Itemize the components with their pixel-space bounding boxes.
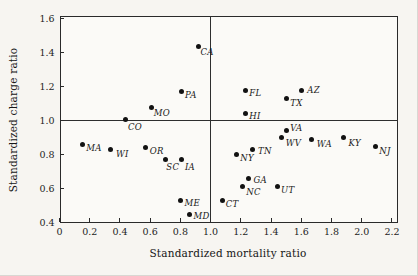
point-label: VA: [290, 124, 302, 133]
point-label: NJ: [379, 147, 390, 156]
scatter-figure: Standardized charge ratio Standardized m…: [0, 0, 418, 276]
data-point: [243, 88, 248, 93]
point-label: ME: [184, 199, 200, 208]
x-axis-tick: [240, 218, 241, 222]
x-tick-label: 0.2: [75, 227, 105, 237]
x-tick-label: 0.6: [135, 227, 165, 237]
y-axis-tick: [60, 154, 64, 155]
y-axis-tick: [60, 222, 64, 223]
point-label: MD: [193, 212, 209, 221]
point-label: NY: [240, 154, 254, 163]
y-axis-tick: [60, 52, 64, 53]
x-axis-tick: [361, 218, 362, 222]
x-axis-tick: [391, 218, 392, 222]
x-tick-label: 2.2: [377, 227, 407, 237]
point-label: TN: [258, 147, 272, 156]
y-axis-title: Standardized charge ratio: [7, 48, 19, 193]
point-label: MO: [154, 109, 170, 118]
reference-line-horizontal: [60, 120, 399, 121]
point-label: UT: [281, 186, 294, 195]
point-label: WA: [317, 140, 332, 149]
data-point: [187, 212, 192, 217]
x-axis-tick: [301, 218, 302, 222]
point-label: NC: [246, 188, 261, 197]
data-point: [373, 144, 378, 149]
x-axis-tick: [119, 218, 120, 222]
y-axis-tick: [60, 120, 64, 121]
x-tick-label: 1.4: [256, 227, 286, 237]
point-label: CA: [201, 48, 214, 57]
point-label: WI: [116, 150, 129, 159]
point-label: PA: [185, 91, 197, 100]
x-axis-tick: [89, 218, 90, 222]
y-tick-label: 0.4: [25, 218, 55, 228]
point-label: FL: [249, 89, 261, 98]
x-tick-label: 2.0: [347, 227, 377, 237]
point-label: TX: [290, 99, 302, 108]
y-axis-tick: [60, 86, 64, 87]
data-point: [80, 142, 85, 147]
data-point: [246, 176, 251, 181]
point-label: WV: [286, 139, 301, 148]
point-label: IA: [185, 163, 195, 172]
point-label: KY: [349, 139, 361, 148]
x-tick-label: 1.0: [196, 227, 226, 237]
x-axis-tick: [210, 218, 211, 222]
y-axis-tick: [60, 188, 64, 189]
x-tick-label: 1.6: [286, 227, 316, 237]
x-axis-tick: [271, 218, 272, 222]
x-axis-tick: [331, 218, 332, 222]
x-axis-title: Standardized mortality ratio: [149, 247, 306, 259]
x-axis-tick: [150, 218, 151, 222]
y-tick-label: 1.2: [25, 82, 55, 92]
data-point: [178, 198, 183, 203]
point-label: HI: [249, 112, 260, 121]
plot-area: [60, 16, 399, 223]
y-tick-label: 0.6: [25, 184, 55, 194]
point-label: SC: [166, 163, 179, 172]
y-tick-label: 0.8: [25, 150, 55, 160]
x-axis-tick: [180, 218, 181, 222]
x-tick-label: 0.8: [165, 227, 195, 237]
y-tick-label: 1.0: [25, 116, 55, 126]
point-label: AZ: [307, 86, 320, 95]
x-tick-label: 1.8: [317, 227, 347, 237]
data-point: [234, 152, 239, 157]
x-tick-label: 1.2: [226, 227, 256, 237]
data-point: [299, 88, 304, 93]
point-label: MA: [86, 144, 101, 153]
y-axis-tick: [60, 18, 64, 19]
point-label: GA: [253, 176, 267, 185]
point-label: CO: [128, 123, 142, 132]
y-tick-label: 1.4: [25, 48, 55, 58]
point-label: OR: [150, 147, 164, 156]
data-point: [284, 96, 289, 101]
point-label: CT: [226, 200, 239, 209]
y-tick-label: 1.6: [25, 14, 55, 24]
x-tick-label: 0.4: [105, 227, 135, 237]
